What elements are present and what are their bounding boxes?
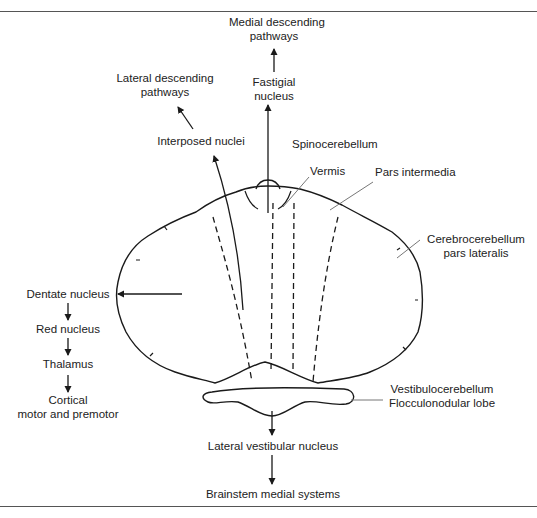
label-vestibulocerebellum: Vestibulocerebellum Flocculonodular lobe bbox=[384, 383, 500, 410]
arrow-to-interposed bbox=[214, 156, 243, 310]
dashed-left-inner bbox=[271, 203, 273, 372]
label-cerebrocerebellum-line2: pars lateralis bbox=[420, 247, 532, 261]
label-spinocerebellum: Spinocerebellum bbox=[292, 138, 378, 152]
label-fastigial-nucleus: Fastigial nucleus bbox=[244, 76, 304, 103]
label-cortical-line2: motor and premotor bbox=[8, 408, 128, 422]
flocculonodular-lobe bbox=[203, 388, 354, 416]
leader-vermis bbox=[283, 177, 309, 207]
cerebellum-outline bbox=[116, 186, 422, 383]
label-pars-intermedia: Pars intermedia bbox=[375, 166, 456, 180]
dashed-right-inner bbox=[293, 203, 294, 372]
label-interposed-nuclei: Interposed nuclei bbox=[151, 135, 251, 149]
label-vestibulocerebellum-line2: Flocculonodular lobe bbox=[384, 397, 500, 411]
arrow-to-lateral-descending bbox=[178, 107, 193, 129]
label-medial-descending-line2: pathways bbox=[229, 30, 319, 44]
fissure-notches bbox=[136, 226, 418, 356]
label-lateral-descending-line2: pathways bbox=[112, 86, 218, 100]
label-vestibulocerebellum-line1: Vestibulocerebellum bbox=[384, 383, 500, 397]
label-thalamus: Thalamus bbox=[18, 358, 118, 372]
dashed-right-outer bbox=[313, 217, 338, 382]
label-red-nucleus: Red nucleus bbox=[18, 323, 118, 337]
label-lateral-vestibular-nucleus: Lateral vestibular nucleus bbox=[198, 440, 348, 454]
label-lateral-descending-line1: Lateral descending bbox=[112, 72, 218, 86]
label-cerebrocerebellum-line1: Cerebrocerebellum bbox=[420, 233, 532, 247]
label-lateral-descending: Lateral descending pathways bbox=[112, 72, 218, 99]
label-medial-descending-line1: Medial descending bbox=[229, 16, 319, 30]
label-fastigial-line2: nucleus bbox=[244, 90, 304, 104]
label-cerebrocerebellum: Cerebrocerebellum pars lateralis bbox=[420, 233, 532, 260]
label-cortical-line1: Cortical bbox=[8, 394, 128, 408]
label-dentate-nucleus: Dentate nucleus bbox=[18, 288, 118, 302]
label-medial-descending: Medial descending pathways bbox=[229, 16, 319, 43]
label-cortical-motor: Cortical motor and premotor bbox=[8, 394, 128, 421]
leader-cerebrocerebellum bbox=[397, 240, 420, 258]
label-brainstem-medial-systems: Brainstem medial systems bbox=[198, 488, 348, 502]
label-vermis: Vermis bbox=[310, 165, 345, 179]
label-fastigial-line1: Fastigial bbox=[244, 76, 304, 90]
dashed-left-outer bbox=[213, 217, 252, 382]
leader-pars-intermedia bbox=[330, 182, 373, 210]
